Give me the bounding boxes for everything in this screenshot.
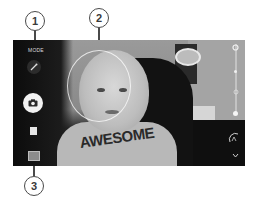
timer-icon: [233, 89, 239, 95]
switch-camera-button[interactable]: [232, 110, 239, 117]
video-record-button[interactable]: [30, 127, 37, 135]
camera-icon: [28, 99, 38, 107]
settings-button[interactable]: [232, 44, 239, 51]
callout-1: 1: [25, 11, 45, 31]
hdr-button[interactable]: [228, 132, 240, 144]
zoom-rail[interactable]: [235, 44, 237, 114]
callout-2: 2: [89, 8, 109, 28]
magic-wand-icon: [30, 63, 38, 71]
timer-button[interactable]: [232, 88, 239, 95]
more-options-button[interactable]: [232, 152, 239, 159]
chevron-down-icon: [232, 153, 239, 158]
flash-button[interactable]: [232, 68, 239, 75]
flash-icon: [233, 69, 238, 74]
face-detection-ring: [67, 50, 131, 122]
hdr-icon: [228, 132, 240, 144]
mode-button[interactable]: MODE: [25, 47, 47, 53]
callout-3: 3: [24, 176, 44, 196]
shutter-button[interactable]: [23, 93, 43, 113]
scene-lamp: [175, 48, 201, 66]
settings-icon: [232, 44, 239, 51]
switch-camera-icon: [232, 110, 239, 117]
camera-viewfinder[interactable]: AWESOME MODE: [13, 40, 245, 166]
figure: AWESOME MODE: [0, 0, 258, 208]
effects-button[interactable]: [27, 60, 41, 74]
gallery-thumbnail[interactable]: [28, 151, 40, 161]
